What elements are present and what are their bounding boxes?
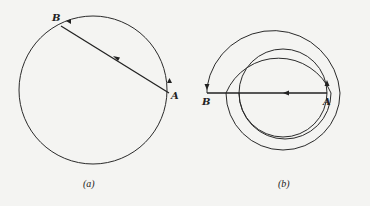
- caption-a: (a): [83, 178, 95, 190]
- caption-b: (b): [278, 178, 290, 190]
- point-b-label: B: [51, 12, 60, 23]
- figure-canvas: B A (a) B A (b): [0, 0, 370, 206]
- point-a-label: A: [170, 90, 179, 101]
- panel-a: B A (a): [19, 12, 179, 190]
- panel-b: B A (b): [201, 31, 340, 190]
- point-a-label-b: A: [322, 96, 331, 107]
- point-b-label-b: B: [201, 96, 210, 107]
- circle-path: [19, 16, 167, 164]
- spiral-path: [207, 31, 340, 150]
- spiral-arrow-down-icon: [205, 84, 210, 90]
- line-arrow-left-icon: [283, 91, 289, 96]
- chord-line-a-to-b: [61, 26, 169, 93]
- arc-arrow-up-icon: [167, 78, 172, 83]
